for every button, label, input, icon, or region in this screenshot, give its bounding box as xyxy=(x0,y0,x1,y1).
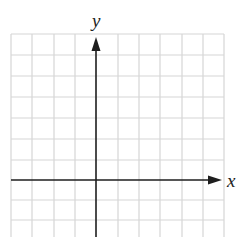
y-axis xyxy=(92,37,101,237)
y-axis-arrow-icon xyxy=(92,37,101,51)
coordinate-plane: x y xyxy=(0,0,238,237)
x-axis-label: x xyxy=(226,170,236,191)
x-axis-arrow-icon xyxy=(208,176,222,185)
grid-lines xyxy=(11,34,224,237)
x-axis xyxy=(11,176,222,185)
y-axis-label: y xyxy=(90,10,101,31)
